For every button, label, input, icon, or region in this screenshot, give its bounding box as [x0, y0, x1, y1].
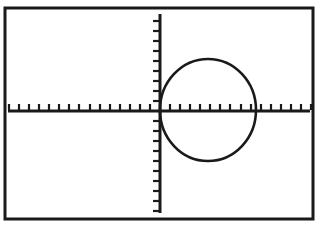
calculator-graph-screen	[0, 0, 324, 235]
graph-canvas	[0, 0, 324, 235]
screenshot-root	[0, 0, 324, 235]
